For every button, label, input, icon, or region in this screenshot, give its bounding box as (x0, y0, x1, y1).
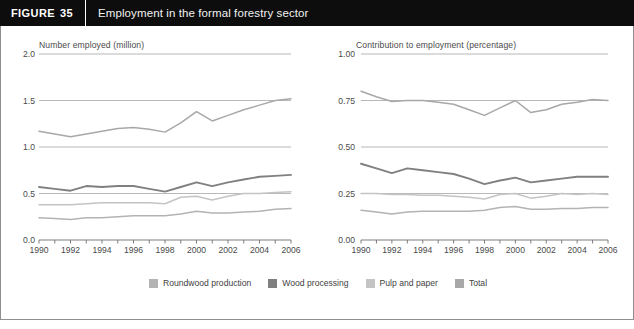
x-axis-label: 2004 (243, 245, 277, 255)
x-axis-label: 1996 (437, 245, 471, 255)
chart-left-svg (39, 54, 291, 240)
legend-swatch-icon (149, 279, 158, 288)
y-axis-label: 0.50 (318, 142, 355, 152)
legend-label: Wood processing (282, 278, 348, 288)
y-axis-label: 0.0 (3, 235, 35, 245)
x-axis-label: 1994 (85, 245, 119, 255)
legend-swatch-icon (366, 279, 375, 288)
figure-panel: Number employed (million) 0.00.51.01.52.… (0, 26, 634, 320)
figure-number: 35 (60, 7, 73, 19)
x-axis-label: 1996 (117, 245, 151, 255)
y-axis-label: 2.0 (3, 49, 35, 59)
x-axis-label: 1998 (468, 245, 502, 255)
figure-container: FIGURE 35 Employment in the formal fores… (0, 0, 634, 329)
series-line-roundwood-production (361, 207, 608, 214)
y-axis-label: 1.00 (318, 49, 355, 59)
x-axis-label: 2004 (560, 245, 594, 255)
chart-right-plot-area (361, 54, 608, 240)
x-axis-label: 2000 (498, 245, 532, 255)
figure-header: FIGURE 35 Employment in the formal fores… (0, 0, 634, 26)
legend-label: Total (469, 278, 487, 288)
legend-label: Pulp and paper (380, 278, 438, 288)
legend-item[interactable]: Total (455, 278, 487, 288)
series-line-pulp-and-paper (361, 194, 608, 200)
series-line-roundwood-production (39, 208, 291, 219)
legend-item[interactable]: Pulp and paper (366, 278, 438, 288)
x-axis-label: 2006 (274, 245, 308, 255)
legend-item[interactable]: Wood processing (268, 278, 348, 288)
chart-contribution-employment: Contribution to employment (percentage) … (318, 26, 634, 266)
chart-right-svg (361, 54, 608, 240)
chart-right-title: Contribution to employment (percentage) (356, 40, 516, 50)
charts-row: Number employed (million) 0.00.51.01.52.… (1, 26, 634, 266)
x-axis-label: 1992 (375, 245, 409, 255)
x-axis-label: 1990 (344, 245, 378, 255)
chart-left-title: Number employed (million) (39, 40, 144, 50)
y-axis-label: 1.0 (3, 142, 35, 152)
figure-word: FIGURE (11, 7, 55, 19)
x-axis-label: 1998 (148, 245, 182, 255)
legend-swatch-icon (455, 279, 464, 288)
x-axis-label: 2002 (211, 245, 245, 255)
y-axis-label: 0.00 (318, 235, 355, 245)
chart-left-plot-area (39, 54, 291, 240)
x-axis-label: 2006 (591, 245, 625, 255)
y-axis-label: 1.5 (3, 96, 35, 106)
y-axis-label: 0.75 (318, 96, 355, 106)
figure-tag: FIGURE 35 (0, 7, 85, 19)
legend-label: Roundwood production (163, 278, 251, 288)
chart-legend: Roundwood productionWood processingPulp … (1, 272, 634, 294)
series-line-wood-processing (39, 175, 291, 192)
series-line-wood-processing (361, 164, 608, 184)
y-axis-label: 0.25 (318, 189, 355, 199)
series-line-total (39, 99, 291, 137)
chart-number-employed: Number employed (million) 0.00.51.01.52.… (1, 26, 318, 266)
y-axis-label: 0.5 (3, 189, 35, 199)
x-axis-label: 1994 (406, 245, 440, 255)
legend-item[interactable]: Roundwood production (149, 278, 251, 288)
x-axis-label: 2000 (180, 245, 214, 255)
series-line-total (361, 91, 608, 115)
figure-title: Employment in the formal forestry sector (86, 7, 308, 19)
x-axis-label: 1990 (22, 245, 56, 255)
x-axis-label: 1992 (54, 245, 88, 255)
legend-swatch-icon (268, 279, 277, 288)
x-axis-label: 2002 (529, 245, 563, 255)
